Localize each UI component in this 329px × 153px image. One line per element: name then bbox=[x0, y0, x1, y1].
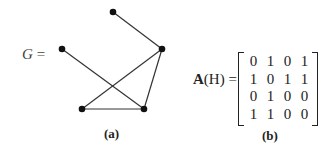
matrix-cell: 0 bbox=[245, 88, 262, 106]
caption-b: (b) bbox=[262, 128, 278, 144]
graph-edge bbox=[144, 49, 162, 109]
matrix-cell: 1 bbox=[262, 88, 279, 106]
matrix-label: A(H) = bbox=[193, 71, 237, 88]
graph-node bbox=[79, 106, 86, 113]
caption-a: (a) bbox=[104, 126, 119, 142]
matrix-argument: (H) = bbox=[204, 71, 237, 87]
adjacency-matrix: 0 1 0 1 1 0 1 1 0 1 0 0 1 1 0 0 bbox=[238, 52, 318, 124]
matrix-cell: 0 bbox=[279, 53, 296, 71]
matrix-cell: 0 bbox=[279, 88, 296, 106]
matrix-cell: 1 bbox=[296, 71, 313, 89]
graph-node bbox=[159, 46, 166, 53]
matrix-cell: 1 bbox=[262, 53, 279, 71]
matrix-cell: 0 bbox=[245, 53, 262, 71]
left-bracket bbox=[238, 52, 244, 126]
graph-edge bbox=[113, 12, 162, 49]
matrix-cell: 1 bbox=[245, 71, 262, 89]
graph-node bbox=[141, 106, 148, 113]
graph-node bbox=[59, 46, 66, 53]
matrix-cell: 0 bbox=[262, 71, 279, 89]
matrix-symbol: A bbox=[193, 71, 204, 87]
matrix-cell: 0 bbox=[296, 106, 313, 124]
matrix-grid: 0 1 0 1 1 0 1 1 0 1 0 0 1 1 0 0 bbox=[245, 53, 313, 123]
graph-edge bbox=[62, 49, 144, 109]
matrix-cell: 1 bbox=[245, 106, 262, 124]
matrix-cell: 1 bbox=[262, 106, 279, 124]
graph-edge bbox=[82, 49, 162, 109]
matrix-cell: 1 bbox=[279, 71, 296, 89]
matrix-cell: 1 bbox=[296, 53, 313, 71]
graph-node bbox=[110, 9, 117, 16]
matrix-cell: 0 bbox=[279, 106, 296, 124]
matrix-cell: 0 bbox=[296, 88, 313, 106]
